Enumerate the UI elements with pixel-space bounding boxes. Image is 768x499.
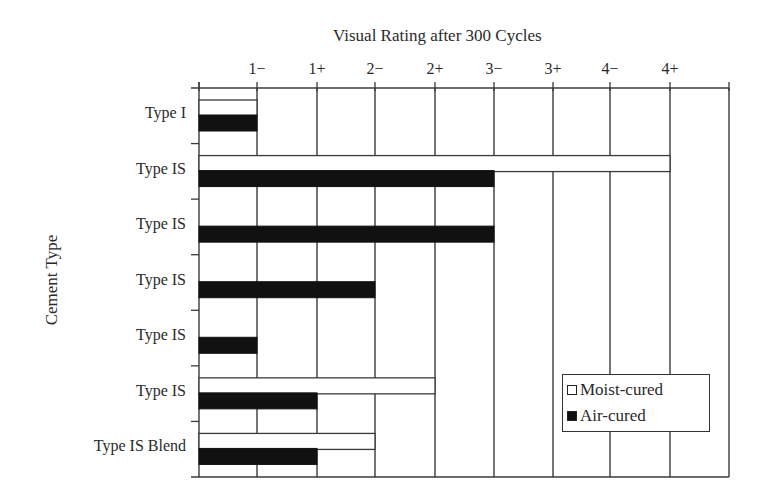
bar-moist-cured: [199, 378, 435, 394]
bar-air-cured: [199, 393, 317, 409]
legend: Moist-cured Air-cured: [562, 374, 710, 432]
x-tick-label: 3−: [485, 60, 502, 78]
bar-moist-cured: [199, 100, 257, 116]
moist-cured-swatch-icon: [567, 385, 577, 395]
category-label: Type I: [145, 104, 186, 122]
bar-air-cured: [199, 226, 494, 242]
bar-air-cured: [199, 282, 375, 298]
bar-air-cured: [199, 115, 257, 131]
bar-air-cured: [199, 337, 257, 353]
bar-moist-cured: [199, 433, 375, 449]
bar-moist-cured: [199, 156, 670, 172]
x-tick-label: 4+: [661, 60, 678, 78]
legend-item-moist-cured: Moist-cured: [567, 377, 703, 403]
x-tick-label: 1+: [308, 60, 325, 78]
bar-air-cured: [199, 448, 317, 464]
legend-label-air: Air-cured: [580, 403, 646, 429]
x-tick-label: 2+: [426, 60, 443, 78]
category-label: Type IS: [136, 271, 186, 289]
legend-item-air-cured: Air-cured: [567, 403, 703, 429]
category-label: Type IS: [136, 326, 186, 344]
category-label: Type IS Blend: [94, 437, 186, 455]
x-tick-label: 2−: [366, 60, 383, 78]
x-tick-label: 3+: [544, 60, 561, 78]
bar-air-cured: [199, 171, 494, 187]
category-label: Type IS: [136, 215, 186, 233]
x-tick-label: 1−: [248, 60, 265, 78]
category-label: Type IS: [136, 382, 186, 400]
category-label: Type IS: [136, 160, 186, 178]
legend-label-moist: Moist-cured: [580, 377, 663, 403]
air-cured-swatch-icon: [567, 411, 577, 421]
x-tick-label: 4−: [601, 60, 618, 78]
